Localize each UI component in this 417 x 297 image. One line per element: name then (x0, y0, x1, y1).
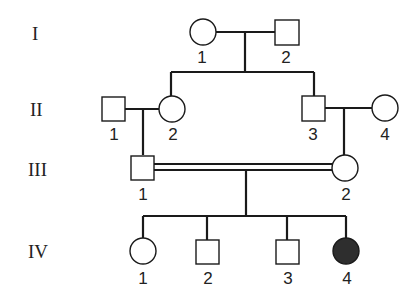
id-label-ii-1: 1 (109, 125, 118, 144)
individual-iii-1-male (131, 156, 154, 180)
generation-label-ii: II (30, 99, 43, 120)
individual-iv-4-female-affected (333, 238, 359, 264)
id-label-iv-2: 2 (203, 269, 212, 288)
id-label-iv-3: 3 (283, 269, 292, 288)
id-label-iii-1: 1 (138, 185, 147, 204)
individual-i-2-male (275, 20, 299, 45)
id-label-i-2: 2 (281, 48, 290, 67)
generation-label-iii: III (28, 159, 47, 180)
individual-ii-3-male (302, 96, 325, 121)
individual-ii-1-male (102, 97, 125, 121)
pedigree-diagram: I II III IV 1 2 1 2 3 4 1 2 1 2 3 4 (0, 0, 417, 297)
individual-i-1-female (190, 19, 216, 45)
individual-iv-2-male (196, 240, 219, 264)
generation-label-iv: IV (28, 241, 48, 262)
individual-iv-1-female (130, 238, 156, 264)
id-label-ii-4: 4 (380, 125, 389, 144)
individual-ii-4-female (372, 95, 398, 121)
id-label-iv-1: 1 (138, 269, 147, 288)
individual-iv-3-male (276, 240, 299, 264)
generation-label-i: I (32, 23, 38, 44)
id-label-iii-2: 2 (341, 185, 350, 204)
id-label-i-1: 1 (197, 48, 206, 67)
id-label-iv-4: 4 (342, 269, 351, 288)
id-label-ii-2: 2 (168, 125, 177, 144)
individual-iii-2-female (332, 155, 358, 181)
individual-ii-2-female (159, 96, 185, 122)
id-label-ii-3: 3 (308, 125, 317, 144)
